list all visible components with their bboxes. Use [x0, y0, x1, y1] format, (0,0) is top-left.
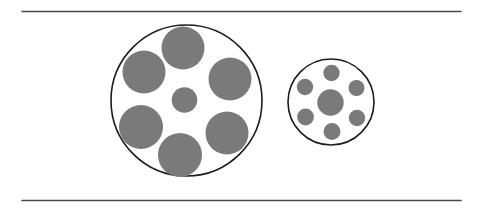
left-group [111, 25, 262, 177]
left-target-circle [172, 87, 198, 113]
figure-root [0, 0, 482, 213]
illusion-figure [0, 0, 482, 213]
right-inducer-6 [297, 79, 313, 95]
right-inducer-4 [324, 123, 341, 140]
left-inducer-2 [209, 58, 252, 101]
left-inducer-4 [158, 133, 202, 177]
right-inducer-3 [349, 110, 365, 126]
right-group [288, 59, 374, 145]
left-inducer-3 [206, 112, 249, 155]
right-inducer-2 [349, 80, 365, 96]
right-inducer-1 [323, 65, 339, 81]
left-inducer-5 [119, 105, 163, 149]
left-inducer-6 [123, 51, 166, 94]
left-inducer-1 [162, 27, 205, 70]
right-target-circle [317, 89, 343, 115]
right-inducer-5 [297, 109, 314, 126]
